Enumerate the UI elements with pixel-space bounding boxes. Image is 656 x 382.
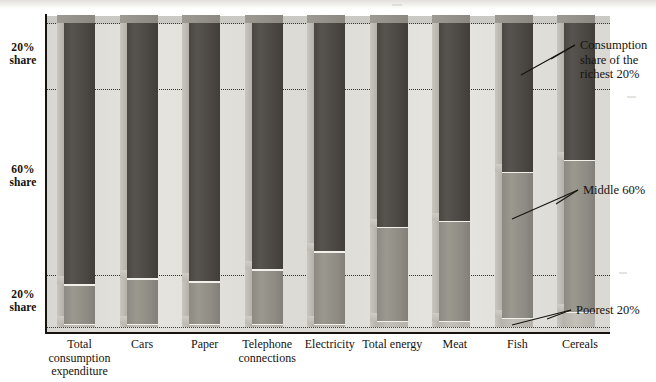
bar-segment-divider-1 <box>377 227 408 229</box>
annotation-middle-line1: Middle 60% <box>583 183 655 198</box>
bar-top-face <box>120 15 158 23</box>
bar-top-face <box>57 15 95 23</box>
annotation-richest-line2: share of the <box>580 53 654 68</box>
annotation-richest-line1: Consumption <box>580 38 654 53</box>
bar-segment-richest-20 <box>377 23 408 227</box>
bar-5[interactable] <box>314 23 345 327</box>
bar-segment-divider-1 <box>64 284 95 286</box>
figure-stacked-bar-consumption-share: 20% share 60% share 20% share Totalconsu… <box>0 0 656 382</box>
bar-segment-middle-60 <box>252 269 283 324</box>
bar-side-divider-2 <box>557 304 564 312</box>
y-axis-line <box>45 14 47 334</box>
gridline-0 <box>47 327 610 328</box>
bar-side-divider-2 <box>495 310 502 318</box>
y-axis-label-bottom-line2: share <box>2 301 44 314</box>
y-axis-label-bottom-line1: 20% <box>2 288 44 301</box>
bar-segment-divider-2 <box>189 324 220 326</box>
annotation-middle: Middle 60% <box>583 183 655 198</box>
bar-segment-divider-1 <box>564 160 595 162</box>
bar-side-face <box>370 15 377 327</box>
bar-top-face <box>245 15 283 23</box>
bar-segment-richest-20 <box>252 23 283 269</box>
x-axis-label-1-line2: consumption <box>28 352 132 366</box>
y-axis-label-top-line2: share <box>2 54 44 67</box>
x-axis-line <box>45 332 610 334</box>
x-axis-label-9: Cereals <box>528 338 632 352</box>
bar-top-face <box>432 15 470 23</box>
bar-2[interactable] <box>127 23 158 327</box>
bar-side-divider-1 <box>120 270 127 278</box>
bar-segment-divider-2 <box>64 324 95 326</box>
bar-segment-divider-1 <box>189 281 220 283</box>
bar-side-divider-2 <box>182 316 189 324</box>
scan-speck <box>619 272 627 274</box>
y-axis-label-middle-line1: 60% <box>2 163 44 176</box>
bar-8[interactable] <box>502 23 533 327</box>
bar-side-divider-2 <box>57 316 64 324</box>
annotation-richest: Consumption share of the richest 20% <box>580 38 654 82</box>
bar-side-divider-2 <box>307 316 314 324</box>
bar-side-divider-1 <box>57 276 64 284</box>
y-axis-label-bottom: 20% share <box>2 288 44 313</box>
scan-page-edge <box>0 0 656 9</box>
y-axis-label-middle: 60% share <box>2 163 44 188</box>
y-axis-label-top: 20% share <box>2 41 44 66</box>
bar-segment-middle-60 <box>64 284 95 324</box>
bar-side-divider-1 <box>495 164 502 172</box>
x-axis-label-4-line2: connections <box>215 352 319 366</box>
bar-side-face <box>307 15 314 327</box>
bar-segment-middle-60 <box>314 251 345 324</box>
bar-segment-richest-20 <box>314 23 345 251</box>
bar-side-face <box>245 15 252 327</box>
bar-side-divider-1 <box>557 152 564 160</box>
bar-segment-middle-60 <box>127 278 158 324</box>
bar-side-divider-2 <box>120 316 127 324</box>
bar-segment-middle-60 <box>189 281 220 324</box>
bar-segment-richest-20 <box>439 23 470 221</box>
bar-side-divider-1 <box>245 261 252 269</box>
bar-segment-divider-1 <box>502 172 533 174</box>
bar-segment-richest-20 <box>64 23 95 284</box>
scan-speck <box>392 4 402 6</box>
scan-speck <box>627 96 636 98</box>
bar-segment-richest-20 <box>127 23 158 278</box>
x-axis-label-1-line3: expenditure <box>28 365 132 379</box>
bar-top-face <box>182 15 220 23</box>
bar-top-face <box>495 15 533 23</box>
bar-top-face <box>307 15 345 23</box>
bar-6[interactable] <box>377 23 408 327</box>
bar-segment-richest-20 <box>189 23 220 281</box>
bar-segment-divider-2 <box>439 321 470 323</box>
bar-segment-divider-1 <box>252 269 283 271</box>
bar-side-face <box>120 15 127 327</box>
bar-segment-divider-2 <box>127 324 158 326</box>
y-axis-label-top-line1: 20% <box>2 41 44 54</box>
bar-7[interactable] <box>439 23 470 327</box>
bar-1[interactable] <box>64 23 95 327</box>
annotation-richest-line3: richest 20% <box>580 67 654 82</box>
bar-side-divider-2 <box>432 313 439 321</box>
y-axis-label-middle-line2: share <box>2 176 44 189</box>
bar-side-face <box>432 15 439 327</box>
bar-segment-richest-20 <box>502 23 533 172</box>
bar-side-face <box>557 15 564 327</box>
bar-segment-divider-2 <box>314 324 345 326</box>
bar-segment-divider-2 <box>377 321 408 323</box>
bar-side-divider-1 <box>182 273 189 281</box>
annotation-poorest: Poorest 20% <box>576 303 654 318</box>
bar-segment-divider-1 <box>439 221 470 223</box>
bar-side-divider-1 <box>370 219 377 227</box>
annotation-poorest-line1: Poorest 20% <box>576 303 654 318</box>
x-axis-label-9-line1: Cereals <box>528 338 632 352</box>
bar-top-face <box>370 15 408 23</box>
bar-side-divider-1 <box>307 243 314 251</box>
bar-segment-middle-60 <box>377 227 408 321</box>
bar-side-divider-1 <box>432 213 439 221</box>
bar-segment-divider-2 <box>252 324 283 326</box>
bar-segment-divider-2 <box>502 318 533 320</box>
bar-top-face <box>557 15 595 23</box>
bar-segment-divider-1 <box>314 251 345 253</box>
bar-3[interactable] <box>189 23 220 327</box>
bar-segment-middle-60 <box>439 221 470 321</box>
bar-4[interactable] <box>252 23 283 327</box>
